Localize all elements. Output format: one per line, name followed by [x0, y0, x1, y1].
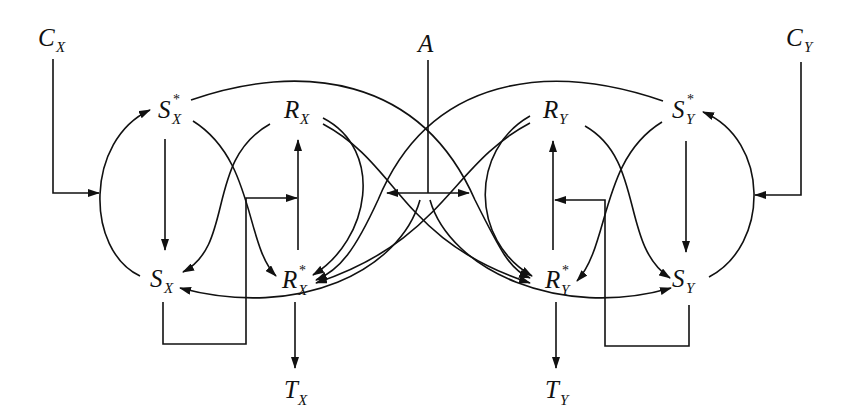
svg-text:*: *	[299, 263, 306, 278]
node-SY: S Y	[672, 265, 696, 296]
svg-text:S: S	[150, 265, 163, 292]
edge-SY-to-SYs	[703, 112, 754, 277]
svg-text:X: X	[171, 111, 182, 127]
module-y-edges	[316, 62, 801, 368]
node-RX: R X	[283, 96, 310, 127]
edge-SXs-to-RYs	[191, 81, 530, 278]
svg-text:X: X	[297, 282, 308, 298]
edge-SX-to-SXs	[100, 110, 150, 276]
signaling-diagram: C X C Y A S X * R X S X R X * T X R Y R …	[0, 0, 842, 419]
svg-text:*: *	[687, 92, 694, 107]
edge-SY-feedback	[555, 200, 689, 346]
A-catalysis	[387, 60, 469, 193]
svg-text:R: R	[542, 96, 558, 123]
node-RY: R Y	[542, 96, 569, 127]
svg-text:X: X	[299, 111, 310, 127]
node-TX: T X	[284, 376, 308, 408]
node-SX-star: S X *	[158, 92, 182, 127]
edge-SX-feedback	[163, 198, 297, 344]
svg-text:X: X	[55, 39, 66, 55]
svg-text:S: S	[158, 96, 171, 123]
node-CY: C Y	[786, 24, 814, 55]
node-SY-star: S Y *	[672, 92, 696, 127]
node-SX: S X	[150, 265, 174, 296]
svg-text:Y: Y	[560, 392, 570, 408]
svg-text:R: R	[283, 96, 299, 123]
node-CX: C X	[38, 24, 66, 55]
svg-text:*: *	[173, 92, 180, 107]
svg-text:Y: Y	[686, 280, 696, 296]
svg-text:Y: Y	[559, 111, 569, 127]
cross-arcs	[180, 200, 671, 298]
svg-text:A: A	[416, 30, 434, 57]
svg-text:R: R	[281, 266, 297, 293]
svg-text:S: S	[672, 96, 685, 123]
svg-text:X: X	[163, 280, 174, 296]
svg-text:*: *	[562, 263, 569, 278]
svg-text:R: R	[544, 266, 560, 293]
svg-text:T: T	[545, 376, 561, 403]
edge-SYs-to-RYs	[577, 122, 662, 281]
edge-SYs-to-RXs	[316, 81, 663, 280]
svg-text:S: S	[672, 265, 685, 292]
edge-RY-to-RYs	[485, 116, 532, 276]
svg-text:C: C	[38, 24, 55, 51]
edge-CX-catalysis	[53, 59, 99, 193]
svg-text:Y: Y	[804, 39, 814, 55]
svg-text:Y: Y	[686, 111, 696, 127]
node-TY: T Y	[545, 376, 570, 408]
edge-RY-to-SY	[585, 126, 670, 278]
node-A: A	[416, 30, 434, 57]
svg-text:C: C	[786, 24, 803, 51]
svg-text:X: X	[297, 392, 308, 408]
edge-RX-to-RXs	[313, 118, 363, 275]
edge-CY-catalysis	[755, 62, 801, 195]
